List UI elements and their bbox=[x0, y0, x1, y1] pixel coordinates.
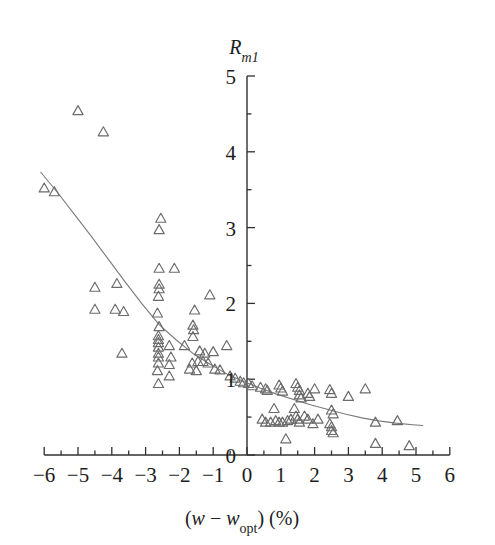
data-point-marker bbox=[325, 419, 335, 428]
data-point-marker bbox=[164, 341, 174, 350]
y-tick-label: 2 bbox=[226, 292, 237, 316]
data-point-marker bbox=[179, 341, 189, 350]
data-point-marker bbox=[208, 347, 218, 356]
data-point-marker bbox=[222, 341, 232, 350]
data-point-marker bbox=[90, 282, 100, 291]
data-point-marker bbox=[112, 278, 122, 287]
y-tick-label: 3 bbox=[226, 217, 237, 241]
data-point-marker bbox=[90, 304, 100, 313]
data-point-marker bbox=[289, 404, 299, 413]
data-point-marker bbox=[281, 434, 291, 443]
x-tick-label: 1 bbox=[276, 463, 287, 487]
x-tick-label: −5 bbox=[67, 463, 89, 487]
axes-group bbox=[44, 76, 450, 455]
x-tick-label: 4 bbox=[377, 463, 388, 487]
data-point-marker bbox=[343, 391, 353, 400]
x-tick-label: −1 bbox=[202, 463, 224, 487]
data-point-marker bbox=[188, 320, 198, 329]
data-point-marker bbox=[154, 225, 164, 234]
data-point-marker bbox=[190, 305, 200, 314]
x-tick-label: −2 bbox=[168, 463, 190, 487]
data-point-marker bbox=[156, 213, 166, 222]
x-tick-label: 3 bbox=[343, 463, 354, 487]
data-point-marker bbox=[169, 263, 179, 272]
x-tick-label: −4 bbox=[101, 463, 124, 487]
figure-container: −6−5−4−3−2−10123456012345Rm1(w − wopt) (… bbox=[0, 0, 495, 545]
y-axis-title: Rm1 bbox=[228, 36, 258, 65]
y-tick-label: 4 bbox=[226, 141, 237, 165]
data-point-marker bbox=[119, 306, 129, 315]
data-point-marker bbox=[404, 441, 414, 450]
data-point-marker bbox=[205, 290, 215, 299]
data-point-marker bbox=[153, 378, 163, 387]
data-point-marker bbox=[152, 308, 162, 317]
data-point-marker bbox=[370, 417, 380, 426]
x-tick-label: 5 bbox=[411, 463, 422, 487]
x-tick-label: −6 bbox=[33, 463, 55, 487]
data-point-marker bbox=[360, 384, 370, 393]
x-tick-label: 6 bbox=[445, 463, 456, 487]
data-point-marker bbox=[98, 127, 108, 136]
x-tick-label: 0 bbox=[242, 463, 253, 487]
data-point-marker bbox=[260, 417, 270, 426]
scatter-plot: −6−5−4−3−2−10123456012345Rm1(w − wopt) (… bbox=[0, 0, 495, 545]
x-axis-title: (w − wopt) (%) bbox=[185, 507, 299, 536]
x-tick-label: 2 bbox=[309, 463, 320, 487]
data-point-marker bbox=[310, 384, 320, 393]
data-point-marker bbox=[164, 371, 174, 380]
data-point-marker bbox=[73, 106, 83, 115]
data-point-marker bbox=[166, 352, 176, 361]
data-point-marker bbox=[117, 348, 127, 357]
data-point-marker bbox=[154, 322, 164, 331]
data-point-marker bbox=[110, 304, 120, 313]
data-point-marker bbox=[39, 183, 49, 192]
data-point-marker bbox=[154, 263, 164, 272]
data-point-marker bbox=[274, 380, 284, 389]
y-tick-label: 1 bbox=[226, 368, 237, 392]
y-tick-label: 5 bbox=[226, 65, 237, 89]
y-tick-label: 0 bbox=[226, 444, 237, 468]
data-point-marker bbox=[269, 404, 279, 413]
x-tick-label: −3 bbox=[134, 463, 156, 487]
data-point-marker bbox=[370, 438, 380, 447]
